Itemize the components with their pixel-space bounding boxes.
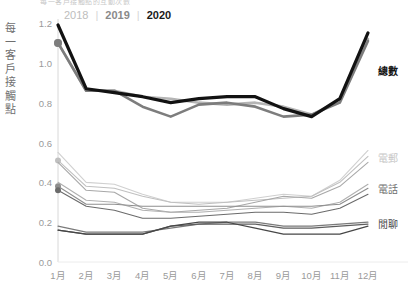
series-marker — [55, 187, 61, 193]
series-label-total: 總數 — [378, 62, 398, 77]
series-group — [55, 150, 368, 212]
plot-area — [0, 0, 412, 286]
series-group — [58, 222, 368, 234]
series-label-phone: 電話 — [378, 181, 398, 196]
line-chart: 每一客戶接觸點的互動次數 2018 | 2019 | 2020 每 一 客 戶 … — [0, 0, 412, 286]
series-label-chat: 閒聊 — [378, 216, 398, 231]
series-marker — [54, 39, 62, 47]
series-line — [58, 182, 368, 212]
series-label-email: 電郵 — [378, 150, 398, 165]
series-line — [58, 156, 368, 204]
series-line — [58, 41, 368, 117]
series-group — [54, 25, 368, 117]
